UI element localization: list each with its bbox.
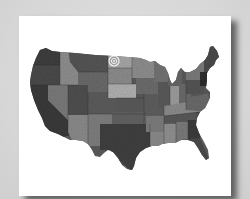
state-indiana [170, 86, 179, 106]
state-arkansas [146, 116, 164, 132]
state-regions [28, 44, 220, 172]
state-louisiana [150, 132, 166, 150]
state-oregon [28, 65, 60, 85]
state-mississippi [164, 124, 176, 146]
state-minnesota [132, 52, 154, 78]
state-michigan [168, 62, 182, 86]
state-wisconsin [154, 60, 168, 82]
state-alabama [176, 122, 188, 146]
state-utah [68, 85, 88, 115]
state-nebraska [108, 84, 136, 98]
state-kansas [116, 98, 144, 112]
state-washington [28, 45, 60, 65]
state-connecticut-ri [200, 72, 212, 86]
state-south-dakota [108, 68, 132, 84]
map-print-card [19, 16, 231, 196]
state-texas [100, 124, 150, 172]
state-carolinas [196, 112, 210, 124]
us-map [19, 16, 231, 196]
state-arizona [68, 115, 88, 145]
